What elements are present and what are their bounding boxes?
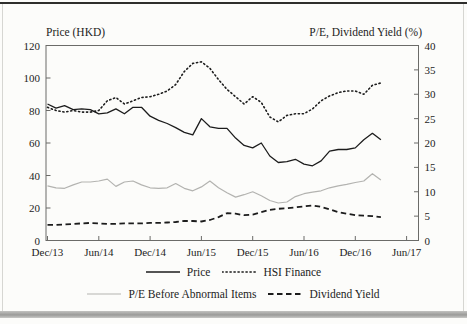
left-axis-tick-label: 100 <box>6 72 40 84</box>
right-axis-tick-label: 35 <box>425 64 436 76</box>
legend-line-sample <box>146 268 180 276</box>
left-axis-tick-label: 60 <box>6 137 40 149</box>
right-axis-tick-label: 40 <box>425 40 436 52</box>
legend-label: P/E Before Abnormal Items <box>128 288 256 300</box>
legend-item-dividend-yield: Dividend Yield <box>268 288 379 300</box>
left-axis-tick-label: 0 <box>6 235 40 247</box>
right-axis-tick-label: 20 <box>425 137 436 149</box>
x-axis-tick-label: Jun/17 <box>383 246 431 258</box>
right-axis-tick-label: 15 <box>425 161 436 173</box>
x-axis-tick-label: Jun/14 <box>75 246 123 258</box>
right-axis-tick-label: 10 <box>425 186 436 198</box>
legend-item-hsi-finance: HSI Finance <box>222 266 321 278</box>
plot-frame <box>46 46 419 241</box>
left-axis-tick-label: 20 <box>6 202 40 214</box>
left-axis-tick-label: 80 <box>6 105 40 117</box>
legend-item-p-e-before-abnormal-items: P/E Before Abnormal Items <box>87 288 256 300</box>
x-axis-tick-label: Jun/16 <box>280 246 328 258</box>
left-axis-tick-label: 40 <box>6 170 40 182</box>
legend-line-sample <box>87 290 121 298</box>
right-axis-tick-label: 5 <box>425 210 431 222</box>
left-axis-tick-label: 120 <box>6 40 40 52</box>
series-line-dividend-yield <box>48 205 381 225</box>
right-axis-tick-label: 30 <box>425 88 436 100</box>
legend-label: HSI Finance <box>263 266 321 278</box>
chart-legend: PriceHSI FinanceP/E Before Abnormal Item… <box>0 265 467 309</box>
legend-label: Dividend Yield <box>309 288 379 300</box>
series-line-p-e-before-abnormal-items <box>48 174 381 203</box>
legend-row: P/E Before Abnormal ItemsDividend Yield <box>0 287 467 300</box>
x-axis-tick-label: Dec/16 <box>331 246 379 258</box>
right-axis-tick-label: 25 <box>425 113 436 125</box>
right-axis-tick-label: 0 <box>425 235 431 247</box>
report-page: Price (HKD) P/E, Dividend Yield (%) 0204… <box>0 0 467 324</box>
x-axis-tick-label: Jun/15 <box>177 246 225 258</box>
legend-row: PriceHSI Finance <box>0 265 467 278</box>
x-axis-tick-label: Dec/15 <box>229 246 277 258</box>
legend-line-sample <box>268 290 302 298</box>
bottom-scan-bar <box>0 311 467 318</box>
legend-label: Price <box>187 266 211 278</box>
series-line-price <box>48 104 381 166</box>
x-axis-tick-label: Dec/14 <box>126 246 174 258</box>
legend-item-price: Price <box>146 266 211 278</box>
x-axis-tick-label: Dec/13 <box>24 246 72 258</box>
legend-line-sample <box>222 268 256 276</box>
